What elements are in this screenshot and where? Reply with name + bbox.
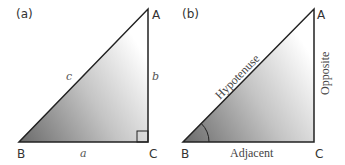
- vertex-a-label-b: A: [317, 8, 326, 22]
- adjacent-label: Adjacent: [230, 146, 274, 160]
- triangle-diagrams: (a) A B C a b c (b) A B C Adjacent Oppos…: [0, 0, 345, 165]
- vertex-c-label-b: C: [315, 147, 323, 161]
- vertex-c-label: C: [149, 147, 157, 161]
- panel-a: (a) A B C a b c: [16, 7, 161, 161]
- vertex-a-label: A: [152, 8, 161, 22]
- vertex-b-label: B: [17, 147, 25, 161]
- side-a-label: a: [80, 147, 87, 160]
- side-c-label: c: [66, 70, 72, 83]
- vertex-b-label-b: B: [181, 147, 189, 161]
- right-triangle-a: [19, 9, 148, 142]
- panel-b-label: (b): [182, 7, 199, 21]
- panel-a-label: (a): [16, 7, 33, 21]
- panel-b: (b) A B C Adjacent Opposite Hypotenuse: [181, 7, 332, 161]
- side-b-label: b: [152, 70, 159, 83]
- opposite-label: Opposite: [318, 52, 332, 95]
- right-triangle-b: [183, 9, 314, 142]
